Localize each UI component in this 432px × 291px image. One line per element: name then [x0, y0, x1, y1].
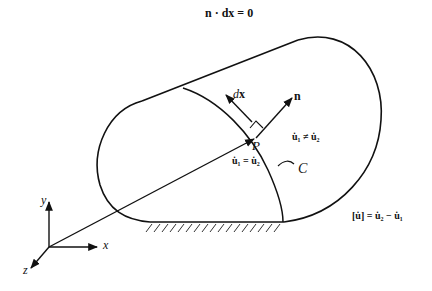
- continuous-region-label: u̇₁ = u̇₂: [232, 156, 260, 166]
- ground-hatch: [146, 224, 280, 232]
- diagram-canvas: [0, 0, 432, 291]
- c-leader: [278, 161, 294, 166]
- jump-equation: [u̇] = u̇₂ − u̇₁: [352, 211, 403, 221]
- x-axis-label: x: [103, 239, 108, 251]
- n-label: n: [294, 90, 301, 102]
- z-axis-label: z: [23, 264, 28, 276]
- dx-label: dx: [233, 88, 245, 100]
- body-outline: [97, 37, 381, 222]
- discontinuous-region-label: u̇₁ ≠ u̇₂: [292, 132, 320, 142]
- z-axis: [31, 247, 49, 268]
- point-p-label: P: [252, 139, 260, 152]
- orthogonality-equation: n · dx = 0: [205, 7, 253, 19]
- y-axis-label: y: [41, 194, 46, 206]
- coordinate-axes: [31, 202, 97, 268]
- right-angle-mark: [250, 121, 263, 128]
- normal-vector-n: [256, 98, 292, 138]
- position-vector: [49, 139, 254, 247]
- curve-c-label: C: [298, 162, 307, 176]
